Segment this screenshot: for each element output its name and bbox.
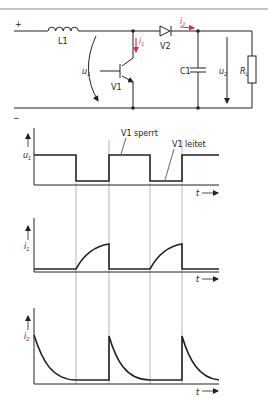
svg-text:t: t [196, 275, 200, 284]
label-rl: RL [240, 67, 249, 77]
diode-v2-icon [160, 26, 171, 36]
svg-text:i1: i1 [24, 242, 29, 252]
label-u1: u1 [82, 67, 90, 77]
terminal-minus: − [13, 114, 20, 123]
boost-converter-diagram: + − L1 V2 V1 C1 u1 u2 RL i1 i2 u1 V1 spe… [0, 0, 268, 399]
node-dot [196, 29, 200, 33]
annotation-v1-off: V1 sperrt [121, 129, 158, 138]
plot-u1: u1 V1 sperrt V1 leitet t [23, 128, 219, 198]
plot-i2: i2 t [24, 308, 219, 397]
node-dot [196, 106, 200, 110]
label-v1: V1 [111, 83, 122, 92]
svg-text:i2: i2 [24, 332, 29, 342]
label-i2: i2 [180, 17, 185, 27]
plot-i1: i1 t [24, 218, 219, 284]
label-v2: V2 [160, 42, 171, 51]
annotation-v1-on: V1 leitet [172, 140, 206, 149]
current-i2-arrow-icon [180, 27, 194, 28]
label-c1: C1 [180, 67, 191, 76]
inductor-l1-icon [48, 27, 78, 31]
label-l1: L1 [58, 37, 68, 46]
label-u2: u2 [219, 67, 227, 77]
terminal-plus: + [15, 20, 22, 29]
resistor-rl-icon [248, 56, 256, 83]
label-i1: i1 [139, 37, 144, 47]
node-dot [131, 106, 135, 110]
svg-text:u1: u1 [23, 151, 31, 161]
node-dot [131, 29, 135, 33]
svg-text:t: t [196, 189, 200, 198]
svg-text:t: t [196, 388, 200, 397]
